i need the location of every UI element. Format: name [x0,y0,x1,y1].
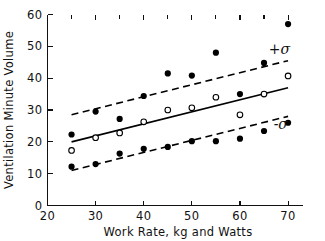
data-point-filled [237,136,243,142]
data-point-open [285,73,291,79]
data-point-open [93,135,99,141]
data-point-open [237,112,243,118]
data-point-open [213,94,219,100]
y-tick-label: 20 [27,135,42,149]
data-point-filled [189,138,195,144]
y-tick-label: 10 [27,167,42,181]
data-point-filled [213,138,219,144]
data-point-open [189,105,195,111]
data-point-open [261,91,267,97]
ventilation-vs-workrate-scatter-plot: 203040506070 0102030405060 +σ-σ Work Rat… [0,0,325,241]
y-tick-label: 0 [35,199,43,213]
y-tick-label: 30 [27,103,42,117]
data-point-filled [141,146,147,152]
data-point-filled [68,131,74,137]
data-point-filled [213,50,219,56]
data-point-filled [141,93,147,99]
data-point-filled [261,128,267,134]
y-tick-label: 40 [27,71,42,85]
data-point-filled [189,73,195,79]
x-tick-label: 30 [88,209,103,223]
minus-sigma-label: -σ [274,116,289,132]
data-point-filled [117,116,123,122]
data-point-filled [285,21,291,27]
data-point-open [117,130,123,136]
x-tick-label: 60 [232,209,247,223]
data-point-filled [117,151,123,157]
x-axis-title: Work Rate, kg and Watts [104,225,253,239]
data-point-filled [237,91,243,97]
y-axis-title: Ventilation Minute Volume [2,31,16,189]
data-point-filled [261,60,267,66]
data-point-filled [165,70,171,76]
x-tick-label: 40 [136,209,151,223]
x-tick-label: 70 [280,209,295,223]
data-point-filled [165,144,171,150]
data-point-filled [93,108,99,114]
data-point-open [165,107,171,113]
chart-figure: 203040506070 0102030405060 +σ-σ Work Rat… [0,0,325,241]
y-tick-label: 50 [27,39,42,53]
y-tick-label: 60 [27,8,42,22]
data-point-filled [68,164,74,170]
data-point-filled [93,161,99,167]
data-point-open [141,119,147,125]
data-point-open [69,148,75,154]
x-tick-label: 50 [184,209,199,223]
plus-sigma-label: +σ [269,41,291,57]
